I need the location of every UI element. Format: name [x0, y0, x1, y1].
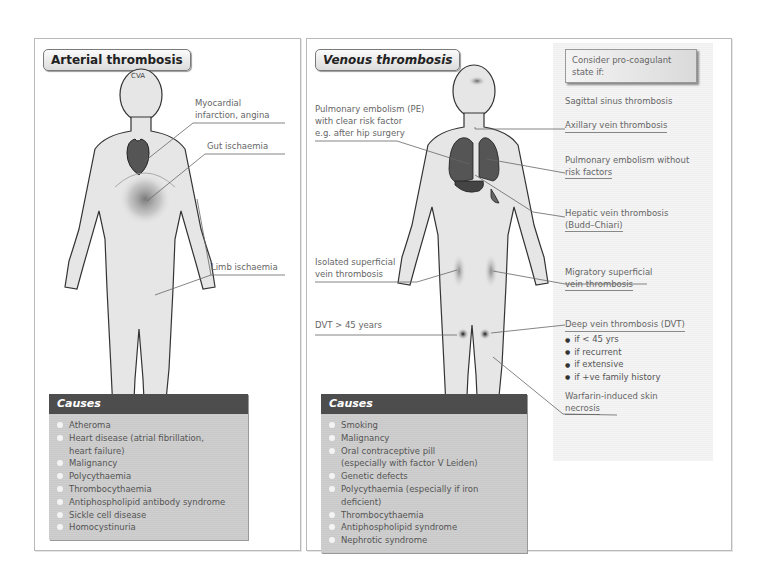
cause-item: Heart disease (atrial fibrillation, — [57, 432, 242, 445]
bullet-icon — [57, 486, 63, 492]
causes-header: Causes — [49, 394, 248, 414]
pe-risk-label-line2: with clear risk factor — [315, 115, 402, 127]
cause-item-continuation: heart failure) — [57, 445, 242, 458]
dvt-over-45-label: DVT > 45 years — [315, 319, 382, 331]
bullet-icon — [329, 486, 335, 492]
bullet-icon — [57, 512, 63, 518]
body-silhouette — [65, 69, 215, 421]
cause-item-continuation: (especially with factor V Leiden) — [329, 457, 521, 470]
cause-item: Thrombocythaemia — [329, 509, 521, 522]
cause-item: Malignancy — [329, 432, 521, 445]
arterial-thrombosis-panel: Arterial thrombosis C — [34, 38, 301, 551]
bullet-icon — [57, 499, 63, 505]
bullet-icon — [57, 524, 63, 530]
gut-ischaemia-label: Gut ischaemia — [207, 140, 268, 152]
cause-item: Homocystinuria — [57, 521, 242, 534]
causes-list: Atheroma Heart disease (atrial fibrillat… — [49, 414, 248, 540]
cva-label: CVA — [131, 70, 145, 82]
causes-header: Causes — [321, 394, 527, 414]
cause-item: Thrombocythaemia — [57, 483, 242, 496]
bullet-icon — [329, 473, 335, 479]
pe-risk-label-line1: Pulmonary embolism (PE) — [315, 103, 424, 115]
limb-ischaemia-label: Limb ischaemia — [211, 261, 278, 273]
pe-risk-label-line3: e.g. after hip surgery — [315, 127, 405, 139]
cause-item: Polycythaemia — [57, 470, 242, 483]
cause-item: Smoking — [329, 419, 521, 432]
bullet-icon — [329, 448, 335, 454]
cause-item: Polycythaemia (especially if iron defici… — [329, 483, 521, 509]
cause-item: Nephrotic syndrome — [329, 534, 521, 547]
cause-item: Genetic defects — [329, 470, 521, 483]
causes-list: Smoking Malignancy Oral contraceptive pi… — [321, 414, 527, 553]
bullet-icon — [57, 460, 63, 466]
bullet-icon — [329, 524, 335, 530]
bullet-icon — [329, 422, 335, 428]
bullet-icon — [329, 537, 335, 543]
body-silhouette — [398, 65, 548, 417]
bullet-icon — [57, 422, 63, 428]
bullet-icon — [57, 435, 63, 441]
cause-item: Antiphospholipid antibody syndrome — [57, 496, 242, 509]
arterial-causes-box: Causes Atheroma Heart disease (atrial fi… — [49, 394, 248, 540]
venous-causes-box: Causes Smoking Malignancy Oral contracep… — [321, 394, 527, 553]
cause-item: Atheroma — [57, 419, 242, 432]
cause-item: Sickle cell disease — [57, 509, 242, 522]
bullet-icon — [57, 473, 63, 479]
superficial-label-line1: Isolated superficial — [315, 256, 395, 268]
cause-item: Antiphospholipid syndrome — [329, 521, 521, 534]
mi-label-line2: infarction, angina — [195, 109, 270, 121]
venous-thrombosis-panel: Venous thrombosis Consider pro-coagulant… — [306, 38, 732, 551]
mi-label-line1: Myocardial — [195, 97, 241, 109]
bullet-icon — [329, 512, 335, 518]
cause-item: Malignancy — [57, 457, 242, 470]
superficial-label-line2: vein thrombosis — [315, 268, 383, 280]
cause-item: Oral contraceptive pill — [329, 445, 521, 458]
bullet-icon — [329, 435, 335, 441]
